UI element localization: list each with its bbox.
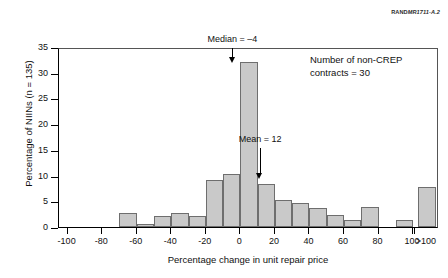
x-axis-tick-label: 0: [237, 236, 242, 246]
histogram-bar: [361, 207, 378, 227]
x-axis-tick-label: 80: [373, 236, 383, 246]
x-axis-tick: [101, 228, 102, 234]
y-axis-tick-label: 20: [28, 119, 48, 129]
histogram-bar: [258, 184, 275, 227]
y-axis-tick-label: 5: [28, 196, 48, 206]
x-axis-tick-label: 40: [303, 236, 313, 246]
histogram-bar: [240, 62, 257, 227]
x-axis-tick: [205, 228, 206, 234]
median-arrow-head: [229, 57, 235, 63]
note-line-1: Number of non-CREP: [310, 54, 402, 67]
x-axis-tick-label: -60: [129, 236, 142, 246]
note-box: Number of non-CREP contracts = 30: [310, 54, 402, 79]
histogram-bar: [344, 220, 361, 227]
mean-arrow-shaft: [260, 148, 261, 174]
y-axis-tick-label: 10: [28, 171, 48, 181]
histogram-bar: [206, 180, 223, 227]
x-axis-tick: [378, 228, 379, 234]
x-axis-tick-label: -100: [58, 236, 76, 246]
y-axis-tick: [51, 177, 58, 178]
median-annotation-label: Median = –4: [208, 34, 258, 44]
x-axis-tick-label: 20: [269, 236, 279, 246]
histogram-bar: [396, 220, 413, 227]
histogram-bar: [137, 224, 154, 227]
histogram-bar: [275, 200, 292, 227]
y-axis-tick: [51, 151, 58, 152]
y-axis-tick: [51, 48, 58, 49]
y-axis-tick-label: 0: [28, 222, 48, 232]
x-axis-tick: [67, 228, 68, 234]
note-line-2: contracts = 30: [310, 67, 402, 80]
y-axis-tick-label: 30: [28, 68, 48, 78]
mean-arrow-head: [256, 173, 262, 179]
x-axis-tick: [136, 228, 137, 234]
histogram-bar: [154, 216, 171, 227]
rand-credit-line: RANDMR1711-A.2: [391, 9, 440, 15]
y-axis-tick: [51, 228, 58, 229]
y-axis-tick: [51, 202, 58, 203]
x-axis-tick-label: 60: [338, 236, 348, 246]
x-axis-tick-label: -40: [164, 236, 177, 246]
histogram-bar: [418, 187, 435, 227]
y-axis-tick: [51, 74, 58, 75]
chart-figure: RANDMR1711-A.2 Percentage of NIINs (n = …: [0, 0, 448, 278]
y-axis-tick: [51, 125, 58, 126]
x-axis-tick-label-overflow: >100: [416, 236, 436, 246]
y-axis-tick: [51, 99, 58, 100]
x-axis-label: Percentage change in unit repair price: [58, 254, 438, 265]
x-axis-tick-label: -80: [95, 236, 108, 246]
y-axis-tick-label: 35: [28, 42, 48, 52]
x-axis-tick: [308, 228, 309, 234]
y-axis-tick-label: 15: [28, 145, 48, 155]
histogram-bar: [189, 216, 206, 227]
histogram-bar: [223, 174, 240, 227]
x-axis-tick: [343, 228, 344, 234]
histogram-bar: [171, 213, 188, 227]
mean-annotation-label: Mean = 12: [239, 134, 282, 144]
histogram-bar: [327, 215, 344, 227]
y-axis-tick-label: 25: [28, 93, 48, 103]
x-axis-tick: [414, 228, 415, 234]
histogram-bar: [292, 203, 309, 227]
histogram-bar: [309, 208, 326, 227]
rand-credit-code: MR1711-A.2: [408, 9, 440, 15]
histogram-bar: [119, 213, 136, 227]
x-axis-tick: [239, 228, 240, 234]
x-axis-tick: [170, 228, 171, 234]
x-axis-tick-label: -20: [198, 236, 211, 246]
rand-credit-prefix: RAND: [391, 9, 408, 15]
x-axis-tick: [274, 228, 275, 234]
